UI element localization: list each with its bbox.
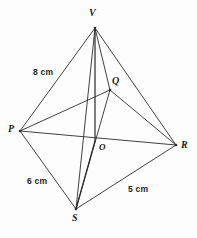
- vertex-label-R: R: [181, 140, 188, 150]
- vertex-dot-V: [94, 27, 97, 30]
- measure-label-sp: 6 cm: [27, 177, 47, 186]
- vertex-label-S: S: [72, 213, 78, 223]
- edge-SP: [20, 131, 76, 209]
- figure-canvas: [0, 0, 197, 238]
- vertex-label-O: O: [99, 143, 106, 152]
- edge-QR: [110, 90, 176, 145]
- geometry-figure: V Q P R S O 8 cm 6 cm 5 cm: [0, 0, 197, 238]
- edge-VR: [95, 28, 176, 145]
- vertex-dot-R: [175, 144, 178, 147]
- measure-label-rs: 5 cm: [128, 185, 148, 194]
- vertex-dot-S: [75, 208, 78, 211]
- edge-PQ: [20, 90, 110, 131]
- measure-label-pv: 8 cm: [33, 68, 53, 77]
- vertex-dot-P: [19, 130, 22, 133]
- vertex-label-V: V: [89, 8, 96, 18]
- edge-VS: [76, 28, 95, 209]
- vertex-label-P: P: [8, 124, 14, 134]
- vertex-dot-Q: [109, 89, 112, 92]
- edge-PV: [20, 28, 95, 131]
- edge-VQ: [95, 28, 110, 90]
- vertex-label-Q: Q: [112, 76, 119, 86]
